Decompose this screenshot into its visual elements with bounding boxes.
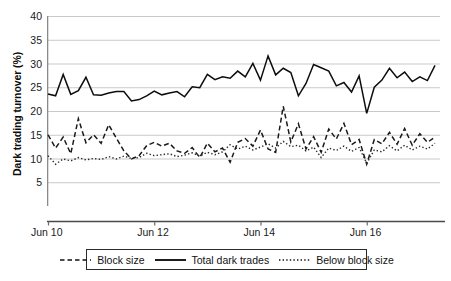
chart-legend: Block sizeTotal dark tradesBelow block s…: [86, 249, 367, 270]
legend-item: Below block size: [278, 254, 394, 266]
legend-swatch-dotted: [278, 256, 311, 264]
x-axis-tick-label: Jun 14: [243, 226, 275, 238]
x-axis-tick-label: Jun 16: [350, 226, 382, 238]
legend-label: Below block size: [316, 254, 394, 266]
legend-swatch-solid: [154, 256, 187, 264]
legend-item: Total dark trades: [154, 254, 270, 266]
x-axis-tick-label: Jun 10: [31, 226, 63, 238]
chart-container: Dark trading turnover (%) 40353025201510…: [0, 0, 451, 281]
legend-label: Block size: [97, 254, 144, 266]
legend-item: Block size: [59, 254, 144, 266]
x-axis-tick-label: Jun 12: [137, 226, 169, 238]
x-axis-svg: [0, 0, 451, 281]
x-axis: Jun 10Jun 12Jun 14Jun 16: [0, 0, 451, 281]
legend-label: Total dark trades: [192, 254, 270, 266]
legend-swatch-dashed: [59, 256, 92, 264]
